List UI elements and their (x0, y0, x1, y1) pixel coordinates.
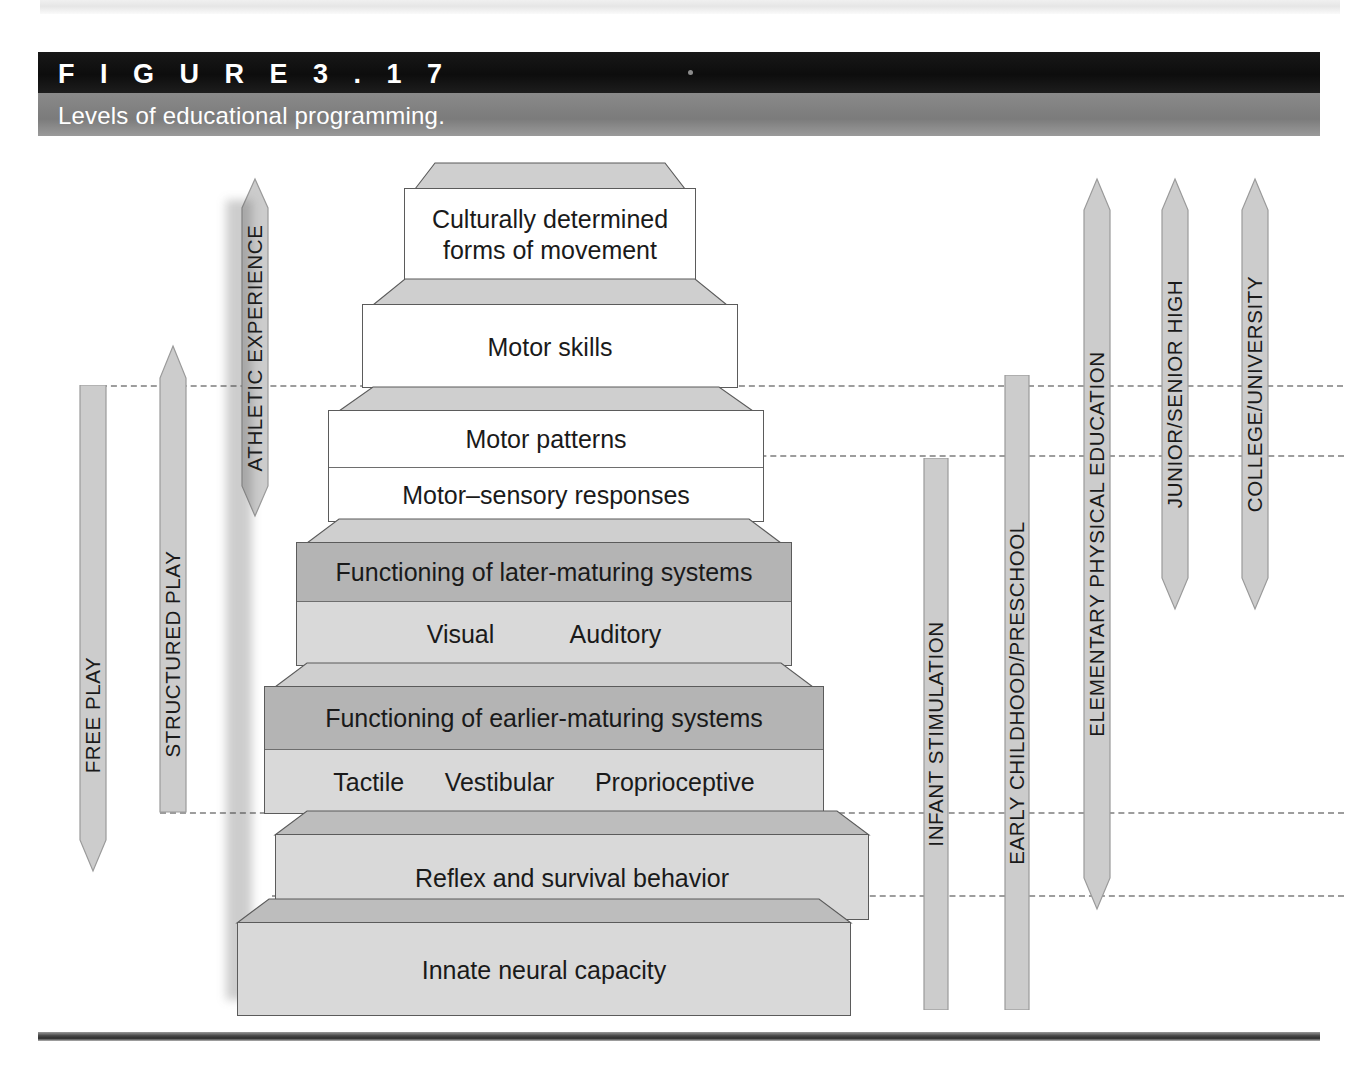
tier-earlier-maturing-block[interactable]: Functioning of earlier-maturing systems … (264, 662, 824, 814)
bar-structured-play[interactable]: STRUCTURED PLAY (152, 342, 194, 816)
tier-motor-skills[interactable]: Motor skills (362, 278, 738, 388)
figure-canvas: F I G U R E 3 . 1 7 Levels of educationa… (0, 0, 1364, 1067)
page-top-band (40, 0, 1340, 14)
bar-structured-play-label: STRUCTURED PLAY (161, 551, 185, 758)
bar-junior-senior-high-label: JUNIOR/SENIOR HIGH (1163, 280, 1187, 508)
bar-infant-stimulation[interactable]: INFANT STIMULATION (918, 458, 954, 1010)
tier-later-maturing-bevel (296, 518, 792, 544)
tier-innate-neural-capacity-bevel (226, 898, 862, 924)
header-speck-icon (688, 70, 693, 75)
figure-number-label: F I G U R E 3 . 1 7 (58, 59, 451, 90)
tier-motor-sensory-label: Motor–sensory responses (402, 481, 690, 510)
tier-reflex-survival-label: Reflex and survival behavior (415, 864, 729, 893)
tier-motor-patterns-face: Motor patterns Motor–sensory responses (328, 410, 764, 522)
figure-number-bar: F I G U R E 3 . 1 7 (38, 52, 1320, 93)
tier-earlier-maturing-divider (265, 749, 823, 750)
tier-innate-neural-capacity-face: Innate neural capacity (237, 922, 851, 1016)
tier-innate-neural-capacity-label: Innate neural capacity (422, 956, 667, 985)
tier-motor-skills-label: Motor skills (487, 333, 612, 362)
tier-culturally-determined-line1: Culturally determined (432, 205, 668, 234)
tier-later-maturing-modalities-row: Visual Auditory (297, 601, 791, 667)
tier-culturally-determined-face: Culturally determined forms of movement (404, 188, 696, 280)
tier-motor-patterns-label: Motor patterns (465, 425, 626, 454)
tier-reflex-survival-bevel (264, 810, 880, 836)
figure-bottom-rule (38, 1032, 1320, 1041)
tier-earlier-maturing-systems-row: Functioning of earlier-maturing systems (265, 687, 823, 749)
bar-free-play-label: FREE PLAY (81, 657, 105, 774)
modality-visual: Visual (427, 620, 495, 649)
bar-elementary-physical-education-label: ELEMENTARY PHYSICAL EDUCATION (1085, 351, 1109, 736)
tier-motor-sensory-divider (329, 467, 763, 468)
tier-motor-patterns-row: Motor patterns (329, 411, 763, 467)
modality-vestibular: Vestibular (445, 768, 555, 797)
bar-elementary-physical-education[interactable]: ELEMENTARY PHYSICAL EDUCATION (1078, 176, 1116, 912)
bar-early-childhood-preschool[interactable]: EARLY CHILDHOOD/PRESCHOOL (999, 375, 1035, 1010)
modality-tactile: Tactile (333, 768, 404, 797)
tier-later-maturing-face: Functioning of later-maturing systems Vi… (296, 542, 792, 666)
tier-earlier-maturing-modalities-row: Tactile Vestibular Proprioceptive (265, 749, 823, 815)
tier-motor-skills-bevel (362, 278, 738, 306)
bar-early-childhood-preschool-label: EARLY CHILDHOOD/PRESCHOOL (1005, 521, 1029, 864)
bar-college-university-label: COLLEGE/UNIVERSITY (1243, 276, 1267, 512)
bar-free-play[interactable]: FREE PLAY (72, 385, 114, 875)
pyramid-shadow (226, 200, 252, 1000)
tier-earlier-maturing-bevel (264, 662, 824, 688)
tier-culturally-determined-bevel (404, 162, 696, 190)
tier-motor-patterns-bevel (328, 386, 764, 412)
bar-college-university[interactable]: COLLEGE/UNIVERSITY (1236, 176, 1274, 612)
figure-caption-bar: Levels of educational programming. (38, 93, 1320, 136)
tier-culturally-determined[interactable]: Culturally determined forms of movement (404, 162, 696, 280)
tier-later-maturing-divider (297, 601, 791, 602)
tier-culturally-determined-row: Culturally determined forms of movement (405, 189, 695, 281)
tier-later-maturing-systems-label: Functioning of later-maturing systems (336, 558, 753, 587)
tier-culturally-determined-line2: forms of movement (443, 236, 657, 265)
tier-earlier-maturing-systems-label: Functioning of earlier-maturing systems (325, 704, 763, 733)
tier-motor-sensory-row: Motor–sensory responses (329, 467, 763, 523)
tier-later-maturing-block[interactable]: Functioning of later-maturing systems Vi… (296, 518, 792, 666)
modality-proprioceptive: Proprioceptive (595, 768, 755, 797)
tier-motor-skills-row: Motor skills (363, 305, 737, 389)
tier-innate-neural-capacity-row: Innate neural capacity (238, 923, 850, 1017)
tier-later-maturing-systems-row: Functioning of later-maturing systems (297, 543, 791, 601)
tier-motor-skills-face: Motor skills (362, 304, 738, 388)
modality-auditory: Auditory (570, 620, 662, 649)
tier-earlier-maturing-face: Functioning of earlier-maturing systems … (264, 686, 824, 814)
bar-infant-stimulation-label: INFANT STIMULATION (924, 621, 948, 846)
tier-motor-patterns-block[interactable]: Motor patterns Motor–sensory responses (328, 386, 764, 522)
figure-caption: Levels of educational programming. (58, 102, 445, 130)
bar-junior-senior-high[interactable]: JUNIOR/SENIOR HIGH (1156, 176, 1194, 612)
free-play-arrow-shape (72, 385, 114, 875)
tier-innate-neural-capacity[interactable]: Innate neural capacity (226, 898, 862, 1016)
